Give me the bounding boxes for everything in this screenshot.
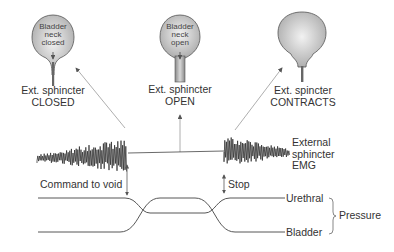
bladder-pressure-curve bbox=[38, 198, 285, 232]
caption-line: Ext. sphincter bbox=[13, 85, 93, 97]
emg-label-line: EMG bbox=[292, 160, 335, 172]
emg-label-line: External bbox=[292, 137, 335, 149]
bladder-closed-inner-label: Bladder neck closed bbox=[36, 23, 70, 47]
emg-label: External sphincter EMG bbox=[292, 137, 335, 172]
urethral-pressure-curve bbox=[38, 198, 285, 213]
urethral-label: Urethral bbox=[286, 193, 323, 205]
pressure-brace bbox=[329, 198, 336, 234]
caption-line: CLOSED bbox=[13, 97, 93, 109]
emg-trace bbox=[37, 138, 290, 172]
pressure-label: Pressure bbox=[339, 210, 381, 222]
caption-line: Ext. spincter bbox=[261, 85, 345, 97]
command-to-void-label: Command to void bbox=[40, 179, 122, 191]
inner-line: closed bbox=[36, 39, 70, 47]
inner-line: open bbox=[163, 39, 197, 47]
bladder-open-inner-label: Bladder neck open bbox=[163, 23, 197, 47]
caption-open: Ext. sphincter OPEN bbox=[140, 84, 220, 107]
caption-closed: Ext. sphincter CLOSED bbox=[13, 85, 93, 108]
caption-line: CONTRACTS bbox=[261, 97, 345, 109]
bladder-label: Bladder bbox=[286, 227, 322, 239]
bladder-contracts-shape bbox=[278, 12, 326, 82]
caption-contracts: Ext. spincter CONTRACTS bbox=[261, 85, 345, 108]
caption-line: Ext. sphincter bbox=[140, 84, 220, 96]
caption-line: OPEN bbox=[140, 96, 220, 108]
stop-label: Stop bbox=[228, 179, 250, 191]
